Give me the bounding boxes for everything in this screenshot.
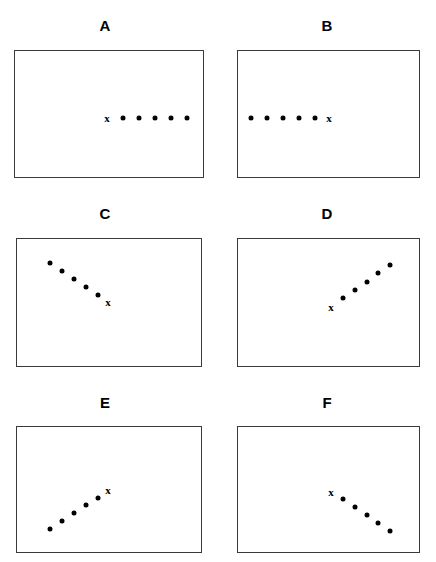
data-point bbox=[365, 280, 370, 285]
data-point bbox=[169, 116, 174, 121]
data-point bbox=[96, 293, 101, 298]
plot-area-c: x bbox=[17, 239, 201, 366]
data-point bbox=[48, 527, 53, 532]
x-marker-a: x bbox=[104, 113, 110, 124]
data-point bbox=[60, 519, 65, 524]
data-point bbox=[137, 116, 142, 121]
panel-label-a: A bbox=[85, 18, 125, 33]
data-point bbox=[281, 116, 286, 121]
panel-box-a: x bbox=[14, 50, 204, 178]
data-point bbox=[341, 497, 346, 502]
panel-box-c: x bbox=[16, 238, 202, 367]
data-point bbox=[153, 116, 158, 121]
panel-box-f: x bbox=[237, 426, 420, 553]
data-point bbox=[185, 116, 190, 121]
panel-box-d: x bbox=[237, 238, 420, 367]
data-point bbox=[96, 496, 101, 501]
data-point bbox=[48, 261, 53, 266]
data-point bbox=[388, 529, 393, 534]
data-point bbox=[72, 277, 77, 282]
data-point bbox=[376, 521, 381, 526]
panel-box-b: x bbox=[237, 50, 420, 178]
plot-area-d: x bbox=[238, 239, 419, 366]
plot-area-e: x bbox=[17, 427, 201, 552]
x-marker-f: x bbox=[328, 487, 334, 498]
data-point bbox=[72, 511, 77, 516]
panel-label-c: C bbox=[85, 206, 125, 221]
panel-box-e: x bbox=[16, 426, 202, 553]
data-point bbox=[341, 296, 346, 301]
x-marker-e: x bbox=[105, 485, 111, 496]
panel-label-e: E bbox=[85, 395, 125, 410]
scatter-panel-figure: AxBxCxDxExFx bbox=[0, 0, 436, 562]
x-marker-d: x bbox=[328, 302, 334, 313]
data-point bbox=[313, 116, 318, 121]
data-point bbox=[353, 505, 358, 510]
data-point bbox=[297, 116, 302, 121]
plot-area-b: x bbox=[238, 51, 419, 177]
data-point bbox=[265, 116, 270, 121]
data-point bbox=[365, 513, 370, 518]
data-point bbox=[353, 288, 358, 293]
panel-label-f: F bbox=[307, 395, 347, 410]
data-point bbox=[388, 263, 393, 268]
x-marker-b: x bbox=[326, 113, 332, 124]
data-point bbox=[60, 269, 65, 274]
panel-label-d: D bbox=[307, 206, 347, 221]
data-point bbox=[84, 285, 89, 290]
data-point bbox=[121, 116, 126, 121]
data-point bbox=[249, 116, 254, 121]
panel-label-b: B bbox=[307, 18, 347, 33]
plot-area-f: x bbox=[238, 427, 419, 552]
plot-area-a: x bbox=[15, 51, 203, 177]
x-marker-c: x bbox=[105, 297, 111, 308]
data-point bbox=[84, 503, 89, 508]
data-point bbox=[376, 271, 381, 276]
